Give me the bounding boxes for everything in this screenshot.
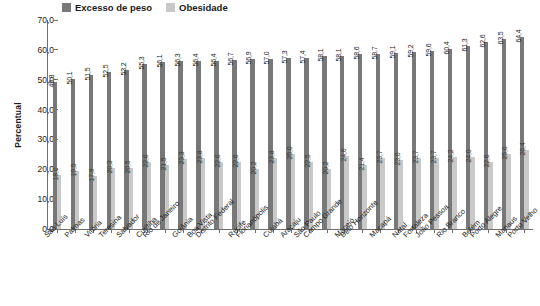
bar-value-label: 25,0 — [501, 147, 508, 160]
bar-value-label: 23,7 — [376, 151, 383, 164]
bar-value-label: 24,6 — [340, 148, 347, 161]
x-tick-label: Distrito Federal — [210, 233, 228, 293]
bar-value-label: 58,6 — [353, 46, 360, 59]
bar-obesidade: 23,0 — [398, 160, 402, 229]
bar-value-label: 51,5 — [84, 68, 91, 81]
bar-value-label: 59,2 — [407, 45, 414, 58]
x-tick-label: Aracaju — [282, 233, 300, 293]
bar-group: 56,920,2 — [246, 20, 264, 229]
bar-value-label: 58,1 — [317, 48, 324, 61]
bar-value-label: 59,6 — [425, 43, 432, 56]
bar-value-label: 21,5 — [160, 157, 167, 170]
chart-container: Excesso de peso Obesidade Percentual 70,… — [0, 0, 540, 306]
bar-value-label: 21,4 — [358, 157, 365, 170]
bar-value-label: 49,3 — [48, 74, 55, 87]
bar-group: 56,121,5 — [156, 20, 174, 229]
bar-group: 64,426,4 — [515, 20, 533, 229]
bar-group: 58,723,7 — [371, 20, 389, 229]
bar-value-label: 56,9 — [245, 52, 252, 65]
bar-value-label: 22,5 — [304, 154, 311, 167]
bar-value-label: 56,3 — [174, 53, 181, 66]
bar-value-label: 22,6 — [232, 154, 239, 167]
x-tick-label: Recife — [228, 233, 246, 293]
x-tick-label: Porto Alegre — [480, 233, 498, 293]
bar-value-label: 62,6 — [479, 34, 486, 47]
bar-group: 59,623,7 — [425, 20, 443, 229]
bar-value-label: 23,3 — [178, 152, 185, 165]
bar-value-label: 22,6 — [214, 154, 221, 167]
x-tick-label: Maceió — [336, 233, 354, 293]
x-tick-label: Curitiba — [138, 233, 156, 293]
x-tick-label: Belém — [462, 233, 480, 293]
figure-caption — [22, 296, 522, 306]
x-tick-label: João Pessoa — [426, 233, 444, 293]
x-tick-label: Florianópolis — [246, 233, 264, 293]
bar-group: 55,322,6 — [138, 20, 156, 229]
bar-value-label: 56,4 — [192, 53, 199, 66]
bar-value-label: 20,2 — [322, 161, 329, 174]
bar-group: 59,123,0 — [389, 20, 407, 229]
bar-group: 57,325,0 — [282, 20, 300, 229]
bar-group: 62,622,6 — [479, 20, 497, 229]
legend-item-obesidade: Obesidade — [166, 2, 228, 13]
bar-value-label: 22,6 — [483, 154, 490, 167]
x-tick-label: Porto Velho — [516, 233, 534, 293]
bar-value-label: 20,2 — [250, 161, 257, 174]
bar-group: 52,520,3 — [102, 20, 120, 229]
x-axis-labels: São LuísPalmasVitóriaTeresinaSalvadorCur… — [48, 233, 534, 293]
bar-group: 53,220,5 — [120, 20, 138, 229]
bar-group: 50,119,5 — [66, 20, 84, 229]
bar-group: 57,422,5 — [300, 20, 318, 229]
bar-value-label: 61,3 — [461, 38, 468, 51]
legend-label: Obesidade — [179, 2, 228, 13]
bar-group: 63,525,0 — [497, 20, 515, 229]
bar-group: 58,621,4 — [353, 20, 371, 229]
bar-value-label: 63,5 — [497, 32, 504, 45]
bar-group: 60,424,2 — [443, 20, 461, 229]
bar-value-label: 17,9 — [88, 168, 95, 181]
square-swatch-icon — [166, 3, 175, 12]
square-swatch-icon — [62, 3, 71, 12]
bar-value-label: 57,3 — [281, 50, 288, 63]
bar-value-label: 20,3 — [106, 161, 113, 174]
bar-value-label: 20,5 — [124, 160, 131, 173]
bar-value-label: 24,2 — [447, 149, 454, 162]
bar-group: 56,422,6 — [210, 20, 228, 229]
chart-legend: Excesso de peso Obesidade — [62, 2, 228, 13]
x-tick-label: Salvador — [120, 233, 138, 293]
x-tick-label: Manaus — [498, 233, 516, 293]
x-tick-label: São Paulo — [300, 233, 318, 293]
bar-value-label: 23,7 — [430, 151, 437, 164]
bar-value-label: 23,0 — [394, 153, 401, 166]
bar-value-label: 56,1 — [156, 54, 163, 67]
bar-value-label: 25,0 — [286, 147, 293, 160]
x-tick-label: Natal — [390, 233, 408, 293]
bar-group: 51,517,9 — [84, 20, 102, 229]
bar-value-label: 57,0 — [263, 51, 270, 64]
x-tick-label: Teresina — [102, 233, 120, 293]
bar-value-label: 22,6 — [142, 154, 149, 167]
bar-value-label: 53,2 — [120, 63, 127, 76]
bar-value-label: 18,0 — [52, 168, 59, 181]
bar-groups: 49,318,050,119,551,517,952,520,353,220,5… — [48, 20, 533, 229]
bar-value-label: 58,7 — [371, 46, 378, 59]
bar-value-label: 19,5 — [70, 163, 77, 176]
x-tick-label: Macapá — [372, 233, 390, 293]
bar-obesidade: 20,2 — [327, 169, 331, 229]
y-axis-title: Percentual — [13, 85, 23, 165]
bar-group: 57,023,8 — [264, 20, 282, 229]
bar-value-label: 24,0 — [465, 150, 472, 163]
x-tick-label: Rio de Janeiro — [156, 233, 174, 293]
bar-value-label: 58,1 — [335, 48, 342, 61]
x-tick-label: Cuiabá — [264, 233, 282, 293]
x-tick-label: Goiânia — [174, 233, 192, 293]
bar-group: 59,223,7 — [407, 20, 425, 229]
bar-value-label: 60,4 — [443, 41, 450, 54]
bar-value-label: 23,8 — [196, 150, 203, 163]
x-tick-label: Palmas — [66, 233, 84, 293]
bar-value-label: 52,5 — [102, 65, 109, 78]
legend-item-excesso-de-peso: Excesso de peso — [62, 2, 152, 13]
bar-value-label: 23,7 — [412, 151, 419, 164]
bar-value-label: 56,4 — [210, 53, 217, 66]
bar-value-label: 23,8 — [268, 150, 275, 163]
